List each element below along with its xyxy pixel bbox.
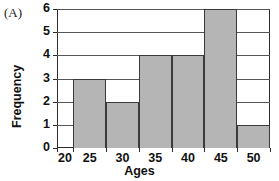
histogram-bar <box>106 102 139 148</box>
gridline <box>57 32 270 33</box>
histogram-bar <box>172 55 205 148</box>
y-tick <box>53 148 57 149</box>
x-tick <box>204 148 205 152</box>
y-tick <box>53 79 57 80</box>
y-tick-label: 5 <box>36 24 50 38</box>
x-tick-label: 25 <box>83 151 97 165</box>
y-tick <box>53 102 57 103</box>
x-tick-label: 35 <box>148 151 162 165</box>
histogram-bar <box>139 55 172 148</box>
x-tick <box>270 148 271 152</box>
histogram-plot-area <box>57 9 270 148</box>
y-axis-title-label: Frequency <box>10 65 24 128</box>
x-tick-label: 45 <box>214 151 228 165</box>
y-tick <box>53 32 57 33</box>
y-tick-label: 6 <box>36 1 50 15</box>
y-tick <box>53 9 57 10</box>
gridline <box>57 9 270 10</box>
x-tick <box>172 148 173 152</box>
y-tick-label: 1 <box>36 117 50 131</box>
x-tick-label: 50 <box>247 151 261 165</box>
x-tick-label: 30 <box>116 151 130 165</box>
x-tick-label: 20 <box>58 151 72 165</box>
x-tick <box>237 148 238 152</box>
x-tick <box>73 148 74 152</box>
y-tick <box>53 55 57 56</box>
histogram-bar <box>204 9 237 148</box>
y-tick-label: 0 <box>36 140 50 154</box>
y-tick-label: 2 <box>36 94 50 108</box>
y-tick <box>53 125 57 126</box>
histogram-bar <box>73 79 106 149</box>
y-tick-label: 3 <box>36 71 50 85</box>
panel-label: (A) <box>4 5 22 21</box>
y-tick-label: 4 <box>36 47 50 61</box>
x-axis-title: Ages <box>0 164 279 178</box>
x-tick-label: 40 <box>181 151 195 165</box>
histogram-bar <box>237 125 270 148</box>
x-tick <box>106 148 107 152</box>
x-tick <box>139 148 140 152</box>
